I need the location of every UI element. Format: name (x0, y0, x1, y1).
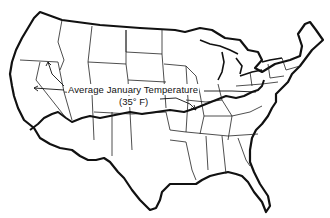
us-map (0, 0, 330, 218)
isotherm-value-label: (35° F) (118, 96, 149, 107)
state-borders (20, 20, 300, 180)
isotherm-label: Average January Temperature (67, 84, 199, 95)
